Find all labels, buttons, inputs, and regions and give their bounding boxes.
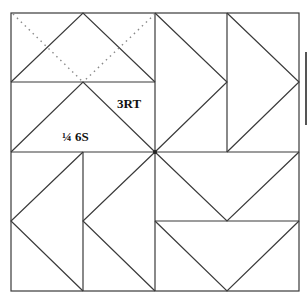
- goose-top-1: [11, 13, 155, 82]
- dotted-guide-left: [13, 14, 83, 82]
- label-quarter-6s: ¼ 6S: [62, 129, 89, 144]
- goose-right-2: [227, 13, 299, 152]
- goose-left-1: [11, 152, 83, 291]
- goose-down-2: [155, 221, 299, 291]
- goose-left-2: [83, 152, 155, 291]
- quilt-block-diagram: 3RT ¼ 6S: [0, 0, 307, 300]
- goose-down-1: [155, 152, 299, 221]
- side-bar: [305, 52, 307, 125]
- goose-right-1: [155, 13, 227, 152]
- dotted-guides: [13, 14, 155, 82]
- label-3rt: 3RT: [117, 96, 141, 111]
- center-point: [153, 150, 157, 154]
